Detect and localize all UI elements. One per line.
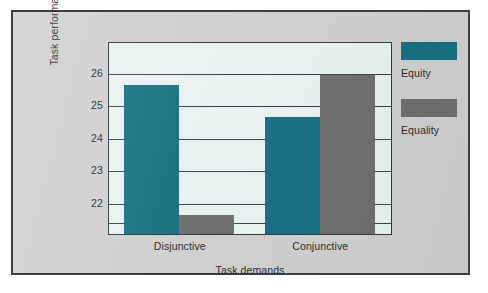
y-axis-tick-label: 24 [69, 133, 103, 144]
y-axis-tick-label: 23 [69, 165, 103, 176]
legend-entry: Equality [401, 99, 465, 136]
y-axis-tick-label: 26 [69, 68, 103, 79]
legend-entry: Equity [401, 42, 465, 79]
legend-label: Equality [401, 124, 465, 136]
bar-disjunctive-equality [179, 215, 234, 235]
plot-area [108, 42, 392, 235]
legend: EquityEquality [401, 42, 465, 156]
x-axis-tick-label: Disjunctive [130, 240, 230, 252]
legend-label: Equity [401, 67, 465, 79]
bar-disjunctive-equity [124, 85, 179, 234]
legend-swatch-equity [401, 42, 457, 60]
y-axis-tick-label: 25 [69, 100, 103, 111]
y-axis-tick-label: 22 [69, 198, 103, 209]
bar-conjunctive-equality [320, 75, 375, 234]
figure-panel: Task performance 2625242322 DisjunctiveC… [11, 10, 470, 275]
y-axis-title: Task performance [46, 0, 62, 88]
x-axis-tick-label: Conjunctive [270, 240, 370, 252]
legend-swatch-equality [401, 99, 457, 117]
bar-conjunctive-equity [265, 117, 320, 234]
y-axis-tick-labels: 2625242322 [65, 42, 103, 234]
x-axis-title: Task demands [108, 264, 392, 276]
